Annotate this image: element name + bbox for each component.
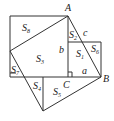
region-S6: S6 — [91, 43, 99, 55]
region-S5: S5 — [53, 86, 61, 98]
pythagoras-figure: A B C a b c S8 S3 S2 S1 S6 S7 S4 S5 — [0, 0, 114, 121]
label-c: c — [83, 27, 88, 38]
tilted-square-bottom — [43, 77, 101, 111]
label-b: b — [59, 44, 64, 55]
region-S3: S3 — [36, 53, 44, 65]
region-S4: S4 — [33, 80, 41, 92]
label-A: A — [64, 2, 72, 13]
label-B: B — [103, 73, 109, 84]
label-a: a — [82, 65, 87, 76]
right-angle-mark — [68, 72, 72, 77]
label-C: C — [63, 79, 70, 90]
region-S8: S8 — [22, 22, 30, 34]
region-S1: S1 — [76, 48, 84, 60]
